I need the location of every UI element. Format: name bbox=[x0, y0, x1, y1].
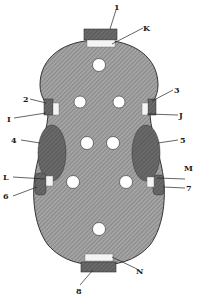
label-i: I bbox=[7, 114, 11, 124]
label-1: 1 bbox=[114, 2, 120, 12]
label-l: L bbox=[3, 172, 9, 182]
hole bbox=[107, 137, 120, 150]
top-pad-k bbox=[87, 40, 115, 47]
hole bbox=[74, 96, 86, 108]
hole bbox=[81, 137, 94, 150]
hole bbox=[67, 176, 80, 189]
block-left-lower bbox=[35, 173, 46, 195]
label-4: 4 bbox=[11, 135, 17, 145]
label-6: 6 bbox=[3, 191, 9, 201]
pad-j bbox=[142, 103, 148, 115]
top-block bbox=[84, 29, 117, 40]
label-7: 7 bbox=[186, 183, 192, 193]
hole bbox=[93, 59, 106, 72]
label-n: N bbox=[136, 266, 143, 276]
bottom-block bbox=[81, 262, 116, 272]
violin-plate-diagram: 1 K 2 I 3 J 4 5 L M 6 7 N 8 bbox=[0, 0, 199, 298]
pad-i bbox=[53, 103, 59, 115]
bottom-pad-n bbox=[85, 254, 113, 261]
pad-m bbox=[147, 177, 154, 187]
side-pad-5 bbox=[132, 125, 160, 181]
label-2: 2 bbox=[23, 94, 29, 104]
block-right-upper bbox=[148, 99, 156, 115]
label-k: K bbox=[143, 23, 151, 33]
label-j: J bbox=[178, 110, 183, 120]
label-5: 5 bbox=[180, 135, 186, 145]
hole bbox=[93, 223, 106, 236]
block-left-upper bbox=[44, 99, 53, 115]
label-m: M bbox=[184, 163, 193, 173]
label-3: 3 bbox=[174, 85, 180, 95]
label-8: 8 bbox=[76, 286, 82, 296]
pad-l bbox=[46, 176, 53, 186]
side-pad-4 bbox=[38, 125, 66, 181]
hole bbox=[113, 96, 125, 108]
hole bbox=[120, 176, 133, 189]
